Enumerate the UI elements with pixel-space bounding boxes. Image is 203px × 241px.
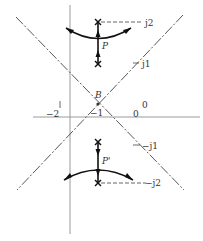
label-p: P: [101, 41, 109, 51]
label-neg1: −1: [90, 108, 103, 118]
label-p-prime: P': [101, 156, 111, 166]
point-b-marker: [96, 102, 99, 105]
root-locus-diagram: j2 j1 P B 0 0 −2 −1 −j1 P' −j2: [0, 0, 203, 241]
label-zero-upper: 0: [142, 100, 148, 110]
label-j1: j1: [141, 59, 151, 69]
label-neg2: −2: [46, 109, 59, 119]
label-neg-j2: −j2: [145, 178, 161, 188]
label-zero-lower: 0: [133, 109, 139, 119]
label-b: B: [94, 90, 102, 100]
label-neg-j1: −j1: [142, 141, 158, 151]
label-j2: j2: [144, 18, 154, 28]
